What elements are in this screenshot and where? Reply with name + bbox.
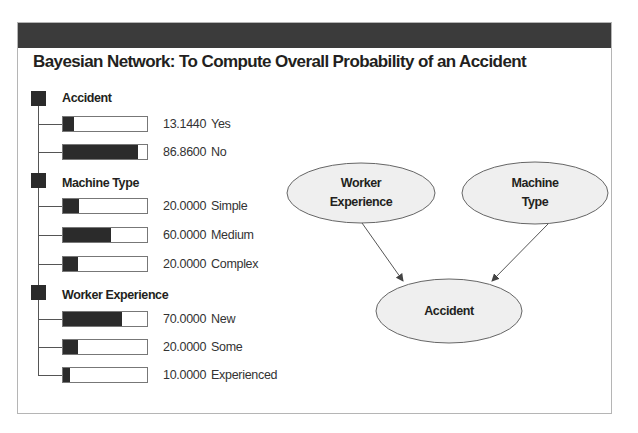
edge-arrow-machine-to-accident: [492, 224, 548, 281]
ellipse-label-accident: Accident: [424, 302, 474, 321]
ellipse-label-worker-experience: Worker Experience: [330, 174, 393, 212]
ellipse-label-line: Worker: [330, 174, 393, 193]
ellipse-label-line: Accident: [424, 302, 474, 321]
edge-arrow-worker-to-accident: [362, 223, 403, 281]
ellipse-label-line: Machine: [511, 174, 558, 193]
ellipse-label-line: Experience: [330, 193, 393, 212]
ellipse-label-machine-type: Machine Type: [511, 174, 558, 212]
ellipse-label-line: Type: [511, 193, 558, 212]
bayesian-network-graph: [0, 0, 638, 433]
